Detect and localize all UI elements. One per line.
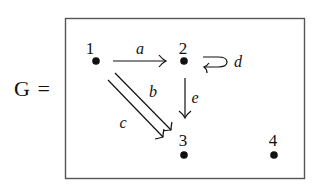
- edge-label: a: [136, 40, 144, 57]
- node-dot: [180, 151, 188, 159]
- node-label: 3: [179, 131, 188, 150]
- node-dot: [92, 57, 100, 65]
- edge-e: e: [179, 78, 199, 118]
- edge-a: a: [113, 40, 166, 67]
- node-4: 4: [269, 131, 278, 159]
- node-2: 2: [179, 39, 188, 65]
- node-label: 4: [269, 131, 278, 150]
- edge-label: d: [234, 53, 243, 70]
- edge-label: c: [119, 114, 126, 131]
- node-3: 3: [179, 131, 188, 159]
- arrowhead-icon: [204, 63, 209, 73]
- node-1: 1: [86, 39, 100, 65]
- node-dot: [270, 151, 278, 159]
- edge-label: e: [191, 89, 198, 106]
- node-label: 2: [179, 39, 188, 58]
- edge-d: d: [203, 53, 243, 73]
- edge-label: b: [149, 83, 157, 100]
- node-dot: [180, 57, 188, 65]
- node-label: 1: [86, 39, 95, 58]
- graph-diagram: 1 2 3 4 a b c e d: [0, 0, 320, 184]
